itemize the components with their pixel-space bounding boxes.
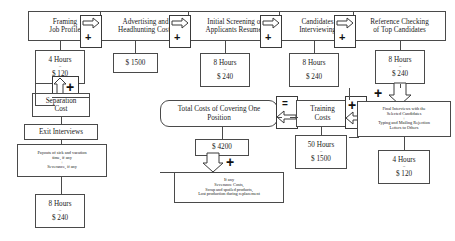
connector-training-rail-vertical <box>349 88 350 100</box>
connector-total-vertical <box>222 127 223 139</box>
exit-interviews-box[interactable]: Exit Interviews <box>24 124 98 140</box>
training-amount: $ 1500 <box>311 155 331 163</box>
arrow-right-icon-3 <box>263 18 280 29</box>
arrow-down-icon-total <box>203 153 224 173</box>
total-amount: $ 4200 <box>212 143 232 151</box>
operator-plus-1-symbol: + <box>85 32 91 43</box>
cost-box-candidates-amount: $ 240 <box>306 73 322 81</box>
connector-left-horizontal <box>35 105 55 106</box>
separation-amount: $ 240 <box>52 214 68 222</box>
process-box-reference-checking-label: Reference Checking of Top Candidates <box>354 17 445 35</box>
total-costs-box[interactable]: Total Costs of Covering One Position <box>160 100 278 127</box>
operator-plus-total-symbol: + <box>226 155 234 169</box>
cost-box-reference-checking[interactable]: 8 Hours = $ 240 <box>375 50 425 84</box>
connector-training-to-equals <box>290 117 298 118</box>
training-costs-box[interactable]: Training Costs <box>296 100 349 127</box>
connector-bottom-horizontal <box>160 172 174 173</box>
connector-proc4-cost <box>314 41 315 53</box>
final-hours: 4 Hours <box>393 156 416 164</box>
connector-reference-vertical <box>400 84 401 88</box>
cost-box-initial-screening-hours: 8 Hours <box>214 59 237 67</box>
connector-proc1-cost <box>60 41 61 50</box>
connector-proc3-cost <box>225 41 226 53</box>
connector-proc2-cost <box>135 41 136 53</box>
cost-box-advertising-amount: $ 1500 <box>126 59 146 67</box>
connector-payouts-vertical <box>61 140 62 144</box>
training-hours: 50 Hours <box>308 141 335 149</box>
operator-plus-separation-symbol: + <box>66 80 74 94</box>
cost-box-candidates-interviewing[interactable]: 8 Hours = $ 240 <box>289 53 339 87</box>
process-box-reference-checking[interactable]: Reference Checking of Top Candidates <box>353 11 446 41</box>
operator-plus-4-symbol: + <box>339 32 345 43</box>
payouts-label: Payouts of sick and vacation time, if an… <box>18 150 106 171</box>
training-hours-cost-box[interactable]: 50 Hours = $ 1500 <box>295 135 347 169</box>
connector-total-to-equals <box>278 117 282 118</box>
cost-box-initial-screening[interactable]: 8 Hours = $ 240 <box>200 53 250 87</box>
arrow-right-icon-2 <box>172 18 189 29</box>
connector-proc5-cost <box>400 41 401 50</box>
training-costs-label: Training Costs <box>310 105 335 121</box>
final-amount: $ 120 <box>396 170 412 178</box>
operator-plus-training-symbol: + <box>348 98 356 112</box>
cost-box-reference-hours: 8 Hours <box>389 56 412 64</box>
separation-hours: 8 Hours <box>49 200 72 208</box>
operator-plus-2-symbol: + <box>174 32 180 43</box>
total-notes-label: If any Severance Costs, Scrap and spoile… <box>175 177 283 198</box>
final-interviews-box[interactable]: Final Interviews with the Selected Candi… <box>357 101 451 137</box>
connector-final-vertical <box>404 137 405 150</box>
total-notes-box[interactable]: If any Severance Costs, Scrap and spoile… <box>174 172 284 203</box>
final-interviews-label: Final Interviews with the Selected Candi… <box>358 106 450 132</box>
payouts-box[interactable]: Payouts of sick and vacation time, if an… <box>17 144 107 177</box>
operator-equals-total-symbol: = <box>282 99 288 109</box>
connector-left-vertical <box>35 70 36 106</box>
cost-box-advertising[interactable]: $ 1500 <box>113 53 158 73</box>
connector-final-rail <box>349 137 359 138</box>
connector-sep-hours-vertical <box>61 177 62 194</box>
separation-hours-cost-box[interactable]: 8 Hours = $ 240 <box>35 194 85 228</box>
cost-box-candidates-hours: 8 Hours <box>303 59 326 67</box>
operator-plus-final-symbol: + <box>374 86 382 100</box>
arrow-right-icon-4 <box>337 18 354 29</box>
operator-plus-3-symbol: + <box>265 32 271 43</box>
arrow-right-icon-1 <box>83 18 100 29</box>
connector-separation-top <box>52 97 90 98</box>
connector-exit-vertical <box>61 117 62 124</box>
connector-training-vertical <box>321 127 322 135</box>
diagram-canvas: Framing Job Profile Advertising and Head… <box>0 0 455 241</box>
total-costs-label: Total Costs of Covering One Position <box>161 104 277 122</box>
cost-box-initial-screening-amount: $ 240 <box>217 73 233 81</box>
cost-box-reference-amount: $ 240 <box>392 70 408 78</box>
cost-box-framing-hours: 4 Hours <box>49 56 72 64</box>
exit-interviews-label: Exit Interviews <box>39 128 83 136</box>
final-hours-cost-box[interactable]: 4 Hours = $ 120 <box>378 150 430 184</box>
